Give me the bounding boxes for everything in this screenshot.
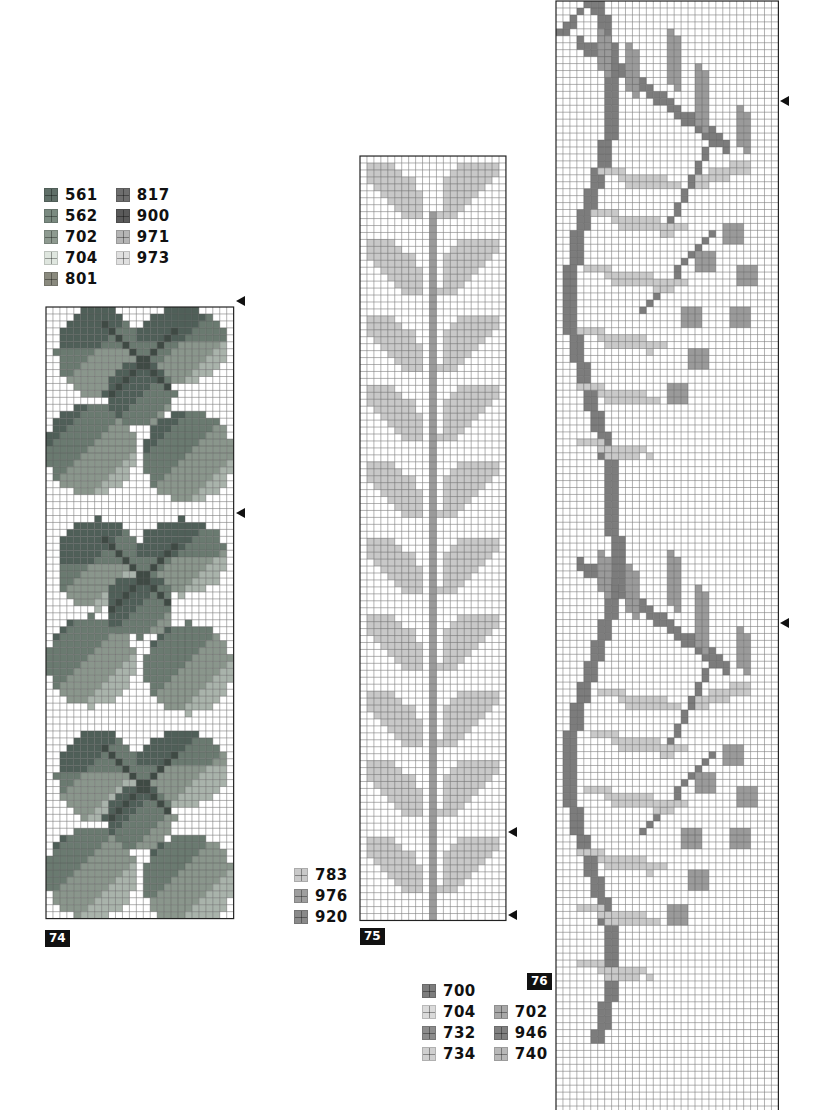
thread-color-swatch-icon (422, 1047, 436, 1061)
thread-color-swatch-icon (116, 209, 130, 223)
thread-code: 783 (315, 866, 348, 884)
thread-code: 973 (137, 249, 170, 267)
stitch-grid (45, 306, 235, 920)
legend-item: 817 (116, 186, 170, 204)
legend-item: 783 (294, 866, 348, 884)
repeat-marker-arrow-icon (508, 910, 517, 920)
thread-color-swatch-icon (422, 1005, 436, 1019)
legend-item: 702 (494, 1003, 548, 1021)
legend-item: 900 (116, 207, 170, 225)
repeat-marker-arrow-icon (780, 618, 789, 628)
legend-item: 732 (422, 1024, 476, 1042)
thread-code: 920 (315, 908, 348, 926)
color-key-legend: 700704702732946734740 (422, 982, 548, 1063)
legend-item (494, 982, 548, 1000)
stitch-grid (359, 155, 507, 922)
chart-number-badge: 74 (45, 930, 70, 947)
thread-code: 900 (137, 207, 170, 225)
thread-color-swatch-icon (44, 188, 58, 202)
stitch-grid (555, 0, 779, 1110)
legend-item: 561 (44, 186, 98, 204)
thread-code: 801 (65, 270, 98, 288)
legend-item: 702 (44, 228, 98, 246)
thread-code: 700 (443, 982, 476, 1000)
thread-color-swatch-icon (116, 230, 130, 244)
legend-item: 971 (116, 228, 170, 246)
thread-color-swatch-icon (116, 251, 130, 265)
thread-color-swatch-icon (294, 889, 308, 903)
legend-item: 801 (44, 270, 98, 288)
thread-code: 702 (515, 1003, 548, 1021)
thread-code: 946 (515, 1024, 548, 1042)
legend-item: 740 (494, 1045, 548, 1063)
legend-item: 704 (44, 249, 98, 267)
thread-color-swatch-icon (294, 910, 308, 924)
thread-code: 817 (137, 186, 170, 204)
chart-number-badge: 75 (360, 928, 385, 945)
thread-color-swatch-icon (44, 251, 58, 265)
legend-item: 946 (494, 1024, 548, 1042)
legend-item: 704 (422, 1003, 476, 1021)
pattern-chart-75 (359, 155, 507, 922)
thread-code: 740 (515, 1045, 548, 1063)
thread-code: 562 (65, 207, 98, 225)
thread-color-swatch-icon (494, 1005, 508, 1019)
thread-color-swatch-icon (422, 984, 436, 998)
pattern-chart-76 (555, 0, 779, 1110)
thread-code: 734 (443, 1045, 476, 1063)
color-key-legend: 561817562900702971704973801 (44, 186, 170, 288)
thread-code: 732 (443, 1024, 476, 1042)
pattern-chart-74 (45, 306, 235, 920)
legend-item: 973 (116, 249, 170, 267)
thread-code: 976 (315, 887, 348, 905)
repeat-marker-arrow-icon (508, 827, 517, 837)
thread-color-swatch-icon (44, 272, 58, 286)
thread-color-swatch-icon (294, 868, 308, 882)
thread-code: 702 (65, 228, 98, 246)
thread-color-swatch-icon (494, 1047, 508, 1061)
legend-item: 976 (294, 887, 348, 905)
legend-item: 562 (44, 207, 98, 225)
thread-color-swatch-icon (116, 188, 130, 202)
thread-color-swatch-icon (494, 1026, 508, 1040)
legend-item: 734 (422, 1045, 476, 1063)
thread-code: 561 (65, 186, 98, 204)
legend-item: 920 (294, 908, 348, 926)
thread-color-swatch-icon (44, 230, 58, 244)
thread-color-swatch-icon (422, 1026, 436, 1040)
color-key-legend: 783976920 (294, 866, 348, 926)
thread-code: 971 (137, 228, 170, 246)
repeat-marker-arrow-icon (780, 96, 789, 106)
thread-code: 704 (443, 1003, 476, 1021)
repeat-marker-arrow-icon (236, 296, 245, 306)
legend-item: 700 (422, 982, 476, 1000)
thread-color-swatch-icon (44, 209, 58, 223)
thread-code: 704 (65, 249, 98, 267)
repeat-marker-arrow-icon (236, 508, 245, 518)
